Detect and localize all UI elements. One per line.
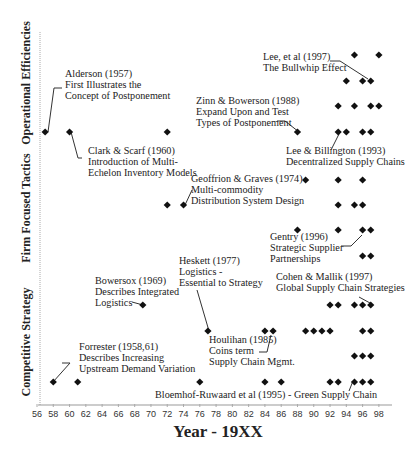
diamond-marker	[302, 327, 309, 334]
diamond-marker	[367, 378, 374, 385]
x-tick-label: 90	[309, 409, 319, 419]
diamond-marker	[302, 176, 309, 183]
x-tick-label: 88	[292, 409, 302, 419]
x-tick-label: 64	[97, 409, 107, 419]
annotation-forrester: Forrester (1958,61)Describes IncreasingU…	[79, 341, 195, 374]
diamond-marker	[335, 226, 342, 233]
diamond-marker	[351, 201, 358, 208]
diamond-marker	[367, 102, 374, 109]
annotation-heskett: Heskett (1977)Logistics -Essential to St…	[179, 255, 264, 288]
x-tick-label: 62	[81, 409, 91, 419]
diamond-marker	[74, 378, 81, 385]
diamond-marker	[196, 378, 203, 385]
diamond-marker	[351, 102, 358, 109]
diamond-marker	[359, 77, 366, 84]
diamond-marker	[351, 301, 358, 308]
diamond-marker	[343, 128, 350, 135]
x-tick-label: 60	[65, 409, 75, 419]
annotation-alderson: Alderson (1957)First Illustrates theConc…	[65, 68, 170, 101]
x-tick-label: 58	[48, 409, 58, 419]
diamond-marker	[164, 128, 171, 135]
diamond-marker	[367, 352, 374, 359]
diamond-marker	[326, 327, 333, 334]
diamond-marker	[42, 128, 49, 135]
x-tick-label: 76	[195, 409, 205, 419]
diamond-marker	[359, 252, 366, 259]
annotation-lee-bullwhip: Lee, et al (1997)The Bullwhip Effect	[263, 51, 347, 73]
x-tick-label: 70	[146, 409, 156, 419]
section-label-operational-efficiencies: Operational Efficiencies	[19, 21, 33, 145]
annotation-lee-billington: Lee & Billington (1993)Decentralized Sup…	[286, 145, 405, 167]
diamond-marker	[261, 378, 268, 385]
x-tick-label: 78	[211, 409, 221, 419]
diamond-marker	[335, 201, 342, 208]
x-tick-label: 84	[260, 409, 270, 419]
diamond-marker	[318, 327, 325, 334]
diamond-marker	[367, 226, 374, 233]
x-tick-label: 72	[162, 409, 172, 419]
diamond-marker	[359, 378, 366, 385]
x-tick-label: 82	[244, 409, 254, 419]
x-tick-label: 96	[358, 409, 368, 419]
diamond-marker	[359, 176, 366, 183]
diamond-marker	[326, 378, 333, 385]
diamond-marker	[310, 327, 317, 334]
x-tick-label: 56	[32, 409, 42, 419]
diamond-marker	[351, 352, 358, 359]
x-tick-label: 86	[276, 409, 286, 419]
section-label-firm-focused-tactics: Firm Focused Tactics	[19, 153, 33, 263]
section-label-competitive-strategy: Competitive Strategy	[19, 288, 33, 397]
diamond-marker	[164, 201, 171, 208]
diamond-marker	[359, 301, 366, 308]
diamond-marker	[375, 102, 382, 109]
x-axis-title: Year - 19XX	[173, 422, 263, 441]
x-tick-label: 92	[325, 409, 335, 419]
annotation-zinn-bowerson: Zinn & Bowerson (1988)Expand Upon and Te…	[196, 95, 299, 128]
diamond-marker	[359, 226, 366, 233]
diamond-marker	[294, 128, 301, 135]
diamond-marker	[335, 378, 342, 385]
diamond-marker	[335, 128, 342, 135]
annotation-bloemhof: Bloemhof-Ruwaard et al (1995) - Green Su…	[155, 389, 377, 401]
diamond-marker	[335, 301, 342, 308]
x-axis-ticks: 5658606264666870727476788082848688909294…	[32, 404, 384, 419]
diamond-marker	[367, 128, 374, 135]
x-tick-label: 74	[179, 409, 189, 419]
diamond-marker	[367, 327, 374, 334]
diamond-marker	[359, 352, 366, 359]
diamond-marker	[359, 128, 366, 135]
diamond-marker	[335, 102, 342, 109]
x-tick-label: 68	[130, 409, 140, 419]
diamond-marker	[367, 252, 374, 259]
annotation-cohen-mallik: Cohen & Mallik (1997)Global Supply Chain…	[276, 271, 405, 293]
diamond-marker	[335, 176, 342, 183]
diamond-marker	[359, 327, 366, 334]
annotation-geoffrion-graves: Geoffrion & Graves (1974)Multi-commodity…	[191, 173, 304, 206]
x-tick-label: 98	[374, 409, 384, 419]
diamond-marker	[326, 301, 333, 308]
timeline-chart: 5658606264666870727476788082848688909294…	[0, 0, 411, 457]
annotation-houlihan: Houlihan (1985)Coins termSupply Chain Mg…	[209, 334, 295, 367]
x-tick-label: 80	[227, 409, 237, 419]
diamond-marker	[343, 77, 350, 84]
diamond-marker	[367, 77, 374, 84]
x-tick-label: 66	[113, 409, 123, 419]
diamond-marker	[359, 201, 366, 208]
diamond-marker	[375, 51, 382, 58]
diamond-marker	[278, 378, 285, 385]
x-tick-label: 94	[341, 409, 351, 419]
diamond-marker	[351, 51, 358, 58]
diamond-marker	[139, 301, 146, 308]
annotation-clark-scarf: Clark & Scarf (1960)Introduction of Mult…	[88, 145, 197, 178]
annotation-gentry: Gentry (1996)Strategic SupplierPartnersh…	[270, 231, 344, 264]
